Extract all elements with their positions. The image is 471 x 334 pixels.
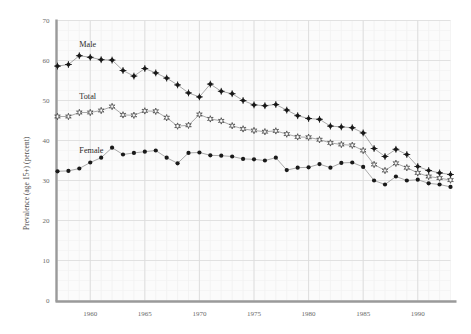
y-tick-label: 70	[43, 17, 51, 25]
y-tick-label: 50	[43, 97, 51, 105]
y-tick-label: 10	[43, 257, 51, 265]
x-tick-label: 1960	[83, 310, 98, 318]
y-axis-title: Prevalence (age 15+) (percent)	[23, 136, 31, 230]
prevalence-line-chart: 010203040506070 196019651970197519801985…	[0, 0, 471, 334]
series-label-total: Total	[79, 92, 96, 101]
x-tick-label: 1975	[247, 310, 262, 318]
x-tick-label: 1970	[192, 310, 207, 318]
x-tick-label: 1980	[302, 310, 317, 318]
x-tick-label: 1990	[411, 310, 426, 318]
y-tick-label: 60	[43, 57, 51, 65]
chart-container: 010203040506070 196019651970197519801985…	[0, 0, 471, 334]
y-tick-label: 40	[43, 137, 51, 145]
series-label-female: Female	[79, 146, 103, 155]
y-tick-label: 20	[43, 217, 51, 225]
x-tick-label: 1985	[356, 310, 371, 318]
y-axis-title-text: Prevalence (age 15+) (percent)	[23, 136, 31, 230]
y-tick-label: 0	[46, 297, 50, 305]
y-tick-label: 30	[43, 177, 51, 185]
x-tick-label: 1965	[138, 310, 153, 318]
series-label-male: Male	[79, 40, 96, 49]
